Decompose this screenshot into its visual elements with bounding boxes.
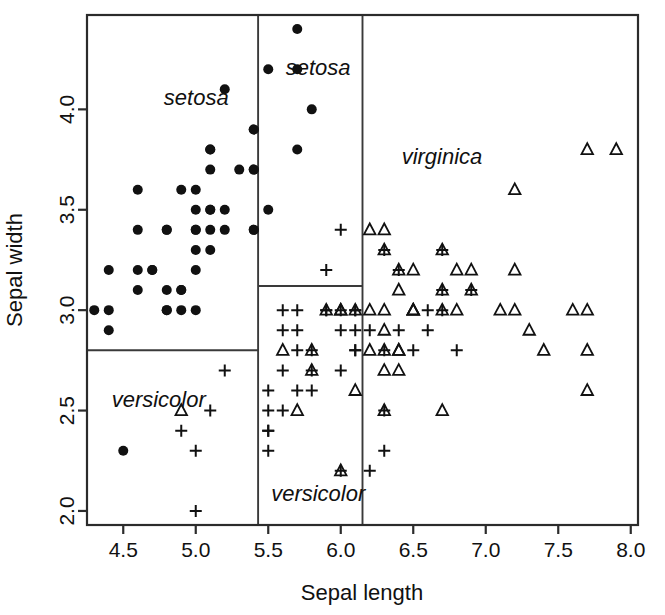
data-point-virginica bbox=[364, 304, 375, 315]
data-point-versicolor bbox=[378, 445, 390, 457]
x-tick-label: 4.5 bbox=[109, 538, 138, 561]
data-point-setosa bbox=[220, 205, 230, 215]
data-point-virginica bbox=[582, 344, 593, 355]
data-point-virginica bbox=[509, 183, 520, 194]
data-point-versicolor bbox=[262, 405, 274, 417]
iris-scatter-figure: 4.55.05.56.06.57.07.58.0 2.02.53.03.54.0… bbox=[0, 0, 665, 615]
data-point-setosa bbox=[249, 165, 259, 175]
data-point-virginica bbox=[364, 224, 375, 235]
data-point-virginica bbox=[379, 364, 390, 375]
data-point-virginica bbox=[292, 404, 303, 415]
data-point-versicolor bbox=[364, 465, 376, 477]
data-point-setosa bbox=[249, 225, 259, 235]
data-point-virginica bbox=[524, 324, 535, 335]
y-tick-label: 3.5 bbox=[55, 195, 78, 224]
x-tick-label: 6.5 bbox=[399, 538, 428, 561]
data-point-virginica bbox=[466, 264, 477, 275]
data-point-setosa bbox=[292, 24, 302, 34]
data-point-versicolor bbox=[277, 405, 289, 417]
data-point-virginica bbox=[408, 264, 419, 275]
data-point-virginica bbox=[379, 224, 390, 235]
data-point-versicolor bbox=[422, 324, 434, 336]
group-labels-group: setosasetosavirginicaversicolorversicolo… bbox=[112, 55, 483, 506]
data-point-setosa bbox=[205, 165, 215, 175]
data-point-versicolor bbox=[219, 364, 231, 376]
data-point-virginica bbox=[379, 304, 390, 315]
data-point-virginica bbox=[567, 304, 578, 315]
data-point-virginica bbox=[582, 384, 593, 395]
data-point-setosa bbox=[205, 205, 215, 215]
data-point-setosa bbox=[162, 285, 172, 295]
data-point-versicolor bbox=[204, 405, 216, 417]
data-point-virginica bbox=[509, 264, 520, 275]
data-point-setosa bbox=[104, 265, 114, 275]
data-point-setosa bbox=[205, 145, 215, 155]
data-point-setosa bbox=[176, 305, 186, 315]
x-tick-label: 7.5 bbox=[544, 538, 573, 561]
x-axis-ticks-group: 4.55.05.56.06.57.07.58.0 bbox=[109, 525, 646, 561]
data-point-setosa bbox=[176, 285, 186, 295]
data-point-virginica bbox=[495, 304, 506, 315]
group-label-versicolor: versicolor bbox=[271, 481, 367, 506]
x-tick-label: 6.0 bbox=[326, 538, 355, 561]
data-point-setosa bbox=[234, 165, 244, 175]
data-point-setosa bbox=[147, 265, 157, 275]
y-tick-label: 2.0 bbox=[55, 496, 78, 525]
data-point-versicolor bbox=[335, 364, 347, 376]
data-point-virginica bbox=[350, 384, 361, 395]
data-point-setosa bbox=[89, 305, 99, 315]
data-point-setosa bbox=[176, 185, 186, 195]
data-point-setosa bbox=[205, 225, 215, 235]
data-point-virginica bbox=[364, 344, 375, 355]
data-point-setosa bbox=[220, 225, 230, 235]
data-point-setosa bbox=[162, 305, 172, 315]
data-point-setosa bbox=[191, 245, 201, 255]
data-point-versicolor bbox=[262, 384, 274, 396]
data-point-virginica bbox=[277, 344, 288, 355]
data-point-versicolor bbox=[190, 445, 202, 457]
data-point-setosa bbox=[263, 64, 273, 74]
data-point-virginica bbox=[582, 143, 593, 154]
data-point-versicolor bbox=[190, 505, 202, 517]
data-point-virginica bbox=[379, 324, 390, 335]
data-point-virginica bbox=[451, 264, 462, 275]
data-point-setosa bbox=[307, 104, 317, 114]
data-point-versicolor bbox=[407, 344, 419, 356]
data-point-versicolor bbox=[262, 425, 274, 437]
data-point-setosa bbox=[249, 124, 259, 134]
data-point-virginica bbox=[393, 284, 404, 295]
data-point-setosa bbox=[104, 305, 114, 315]
data-point-versicolor bbox=[291, 324, 303, 336]
data-point-versicolor bbox=[277, 364, 289, 376]
x-tick-label: 7.0 bbox=[471, 538, 500, 561]
data-point-setosa bbox=[191, 185, 201, 195]
data-point-versicolor bbox=[277, 304, 289, 316]
data-point-versicolor bbox=[277, 324, 289, 336]
data-point-setosa bbox=[191, 305, 201, 315]
data-point-setosa bbox=[205, 245, 215, 255]
data-point-virginica bbox=[393, 344, 404, 355]
x-tick-label: 8.0 bbox=[616, 538, 645, 561]
data-point-setosa bbox=[162, 225, 172, 235]
group-label-setosa: setosa bbox=[286, 55, 351, 80]
group-label-virginica: virginica bbox=[402, 144, 483, 169]
y-tick-label: 4.0 bbox=[55, 95, 78, 124]
data-point-setosa bbox=[133, 265, 143, 275]
data-point-versicolor bbox=[451, 344, 463, 356]
group-label-versicolor: versicolor bbox=[112, 387, 208, 412]
data-point-versicolor bbox=[349, 324, 361, 336]
data-point-versicolor bbox=[175, 425, 187, 437]
data-point-setosa bbox=[133, 185, 143, 195]
data-point-versicolor bbox=[364, 324, 376, 336]
data-point-setosa bbox=[133, 285, 143, 295]
data-point-versicolor bbox=[335, 224, 347, 236]
data-point-versicolor bbox=[291, 384, 303, 396]
data-point-virginica bbox=[509, 304, 520, 315]
data-point-virginica bbox=[451, 304, 462, 315]
data-point-setosa bbox=[263, 205, 273, 215]
data-point-setosa bbox=[292, 145, 302, 155]
y-axis-ticks-group: 2.02.53.03.54.0 bbox=[55, 95, 87, 526]
data-point-versicolor bbox=[291, 304, 303, 316]
data-point-virginica bbox=[538, 344, 549, 355]
data-point-versicolor bbox=[422, 304, 434, 316]
